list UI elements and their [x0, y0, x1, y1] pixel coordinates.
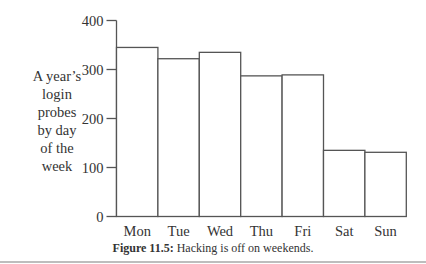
y-axis-label-line: by day — [24, 121, 90, 139]
y-axis-label-line: of the — [24, 139, 90, 157]
y-tick-label: 0 — [96, 209, 103, 225]
bar-wed — [199, 52, 240, 216]
bars — [117, 47, 407, 216]
bar-sat — [324, 150, 365, 216]
y-axis-label-line: probes — [24, 103, 90, 121]
bar-tue — [158, 59, 199, 217]
x-tick-label: Thu — [250, 223, 273, 239]
x-tick-label: Sat — [335, 223, 354, 239]
bar-fri — [282, 75, 323, 217]
x-tick-label: Fri — [294, 223, 311, 239]
y-axis-label-line: A year’s — [24, 67, 90, 85]
y-axis-label: A year’s login probes by day of the week — [24, 67, 90, 175]
bar-mon — [117, 47, 158, 216]
figure-caption: Figure 11.5: Hacking is off on weekends. — [0, 241, 426, 256]
y-axis-label-line: week — [24, 157, 90, 175]
x-tick-label: Wed — [207, 223, 234, 239]
page-divider — [0, 261, 426, 263]
bar-sun — [365, 152, 406, 216]
x-tick-label: Sun — [374, 223, 397, 239]
x-axis-labels: MonTueWedThuFriSatSun — [123, 223, 397, 239]
y-tick-label: 400 — [82, 13, 104, 29]
x-tick-label: Tue — [168, 223, 190, 239]
x-tick-label: Mon — [123, 223, 151, 239]
y-axis-label-line: login — [24, 85, 90, 103]
bar-thu — [241, 76, 282, 217]
figure-caption-text: Hacking is off on weekends. — [177, 241, 314, 255]
figure-label: Figure 11.5: — [113, 241, 174, 255]
